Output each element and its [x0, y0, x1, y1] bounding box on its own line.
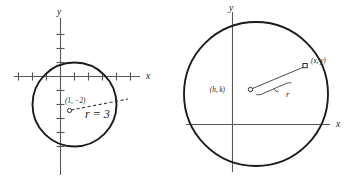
right-x-axis-label: x: [335, 119, 341, 129]
figure-svg: (1, −2) r = 3 x y (h, k) (x, y): [0, 0, 349, 185]
right-center-marker: [248, 87, 252, 91]
right-circle: [184, 22, 328, 166]
right-radius-label: r: [286, 89, 290, 99]
right-y-axis-label: y: [228, 3, 234, 13]
left-center-label: (1, −2): [65, 97, 86, 105]
circle-figure: (1, −2) r = 3 x y (h, k) (x, y): [0, 0, 349, 185]
right-point-marker: [303, 64, 307, 68]
left-panel: (1, −2) r = 3 x y: [14, 7, 151, 175]
left-y-axis-label: y: [56, 7, 62, 17]
left-center-marker: [67, 108, 71, 112]
right-radius-line: [253, 67, 306, 89]
right-center-label: (h, k): [210, 86, 226, 94]
right-panel: (h, k) (x, y) r x y: [184, 3, 341, 172]
left-x-axis-label: x: [145, 71, 151, 81]
right-point-label: (x, y): [311, 57, 326, 65]
left-radius-label: r = 3: [85, 107, 110, 121]
